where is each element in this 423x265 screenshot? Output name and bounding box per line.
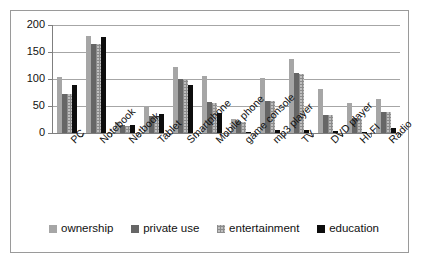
legend-label: ownership: [61, 223, 113, 235]
bar-group: [82, 25, 111, 133]
legend-swatch-icon: [49, 225, 57, 233]
bar-group: [53, 25, 82, 133]
bar-education: [101, 37, 106, 133]
legend-item[interactable]: education: [317, 223, 379, 235]
bar-entertainment: [328, 115, 333, 133]
legend-swatch-icon: [131, 225, 139, 233]
legend-swatch-icon: [217, 225, 225, 233]
y-axis-tick-label: 100: [11, 73, 45, 84]
bar-education: [72, 85, 77, 133]
chart-container: 050100150200 PCNotebookNetbookTabletSmar…: [10, 10, 409, 253]
y-axis-tick-mark: [48, 133, 53, 134]
bar-group: [169, 25, 198, 133]
y-axis-tick-label: 0: [11, 127, 45, 138]
y-axis-tick-label: 50: [11, 100, 45, 111]
chart-legend: ownershipprivate useentertainmenteducati…: [49, 223, 379, 235]
legend-swatch-icon: [317, 225, 325, 233]
bar-group: [371, 25, 400, 133]
bar-education: [188, 85, 193, 133]
legend-item[interactable]: private use: [131, 223, 199, 235]
legend-label: private use: [143, 223, 199, 235]
x-axis-category-labels: PCNotebookNetbookTabletSmartphoneMobile …: [53, 137, 400, 199]
legend-item[interactable]: ownership: [49, 223, 113, 235]
y-axis-tick-label: 200: [11, 19, 45, 30]
legend-label: education: [329, 223, 379, 235]
bar-group: [313, 25, 342, 133]
legend-item[interactable]: entertainment: [217, 223, 299, 235]
legend-label: entertainment: [229, 223, 299, 235]
y-axis-tick-label: 150: [11, 46, 45, 57]
